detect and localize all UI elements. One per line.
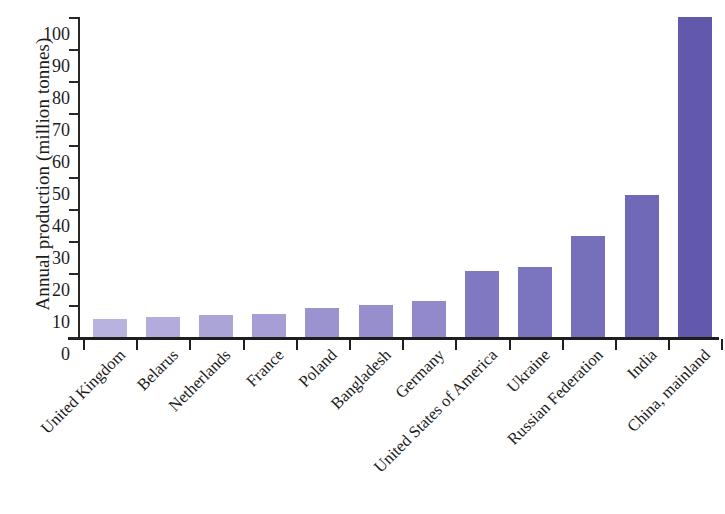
y-axis-tick: [69, 209, 79, 211]
bar: [146, 317, 180, 337]
bar-chart-figure: Annual production (million tonnes) 100 9…: [0, 0, 725, 514]
x-tick-label: Russian Federation: [505, 346, 607, 448]
y-axis-tick: [69, 81, 79, 83]
y-axis-tick: [69, 49, 79, 51]
y-axis-tick: [69, 241, 79, 243]
bar: [359, 305, 393, 337]
y-axis-tick: [69, 145, 79, 147]
x-tick-label: Poland: [296, 346, 340, 390]
y-tick-label: 40: [30, 217, 70, 235]
y-tick-label: 30: [30, 249, 70, 267]
bar: [571, 236, 605, 337]
y-axis-tick-labels: 100 90 80 70 60 50 40 30 20 10 0: [26, 17, 70, 339]
y-tick-label: 50: [30, 185, 70, 203]
bar: [625, 195, 659, 337]
y-tick-label: 90: [30, 57, 70, 75]
bar: [199, 315, 233, 337]
y-axis-tick: [69, 337, 79, 339]
y-axis-tick: [69, 305, 79, 307]
y-axis-tick: [69, 273, 79, 275]
y-tick-label: 10: [30, 313, 70, 331]
x-axis-tick-labels: United KingdomBelarusNetherlandsFrancePo…: [78, 342, 725, 514]
y-axis-tick: [69, 177, 79, 179]
x-tick-label: France: [243, 346, 287, 390]
x-axis-line: [68, 337, 719, 340]
bar: [412, 301, 446, 337]
bar: [252, 314, 286, 337]
bar: [518, 267, 552, 337]
y-tick-label: 20: [30, 281, 70, 299]
bar: [678, 17, 712, 337]
y-tick-label: 60: [30, 153, 70, 171]
y-tick-label: 70: [30, 121, 70, 139]
y-tick-label: 0: [30, 345, 70, 363]
y-tick-label: 80: [30, 89, 70, 107]
bar: [93, 319, 127, 337]
y-axis-tick: [69, 113, 79, 115]
y-axis-tick: [69, 17, 79, 19]
x-tick-label: Belarus: [134, 346, 182, 394]
x-tick-label: India: [624, 346, 660, 382]
bar: [305, 308, 339, 337]
bar: [465, 271, 499, 337]
x-tick-label: Ukraine: [504, 346, 554, 396]
plot-area: [78, 17, 719, 338]
y-tick-label: 100: [30, 25, 70, 43]
